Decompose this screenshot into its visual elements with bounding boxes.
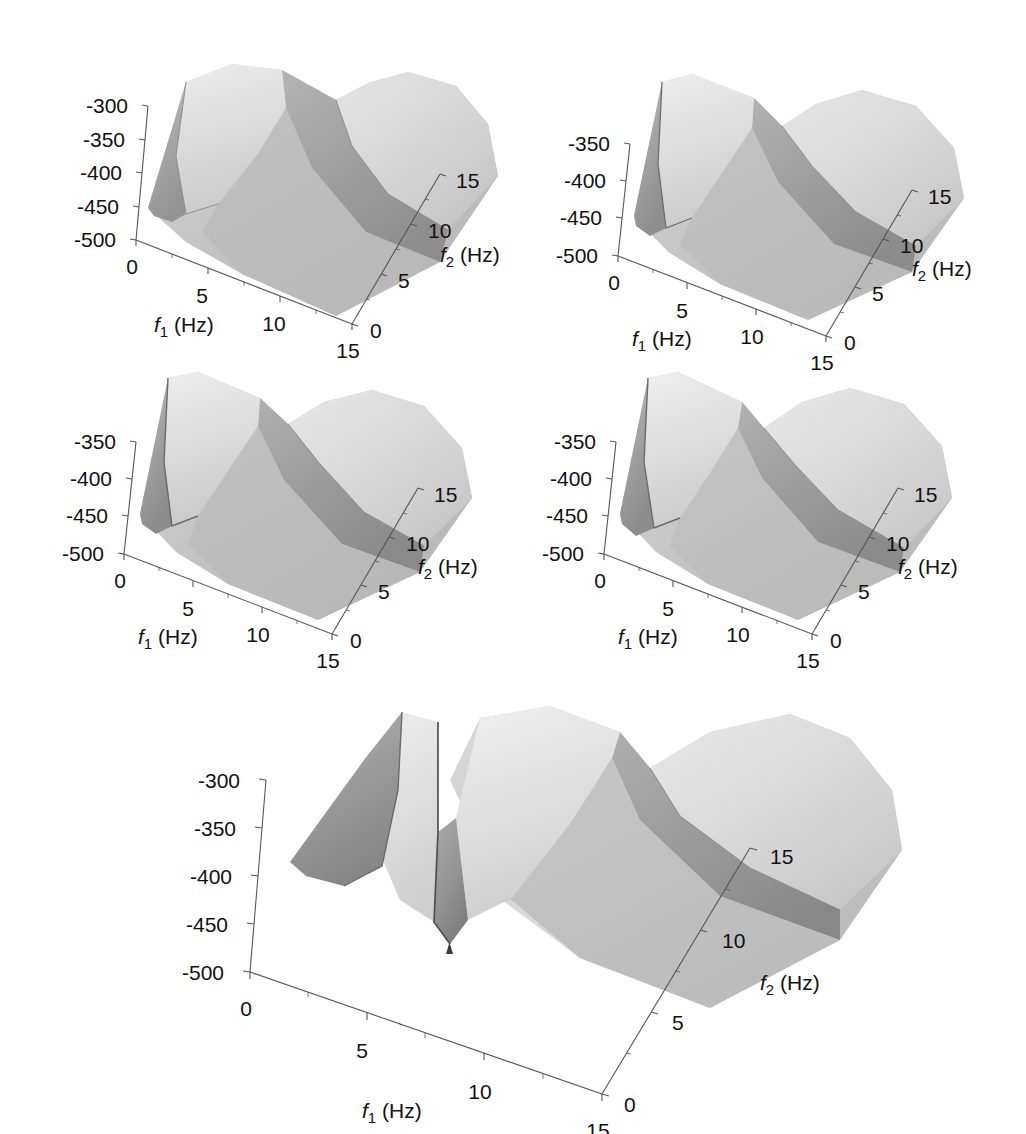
panel-1-z-tick-label-1: -350 xyxy=(83,128,125,151)
panel-5-x-axis-line xyxy=(250,972,602,1094)
figure-canvas: -300 -350 -400 -450 -500 0 5 10 15 f1 (H… xyxy=(0,0,1026,1134)
panel-3-z-ticks xyxy=(118,441,136,554)
panel-3-svg: -350 -400 -450 -500 0 5 10 15 f1 (Hz) xyxy=(32,358,502,658)
panel-5-x-ticks xyxy=(250,972,602,1101)
panel-1-y-tick-label-2: 10 xyxy=(428,219,451,242)
panel-5-z-tick-label-0: -300 xyxy=(198,769,240,792)
panel-5-svg: -300 -350 -400 -450 -500 0 5 10 15 f1 (H… xyxy=(150,672,920,1134)
panel-5-x-tick-label-0: 0 xyxy=(240,997,252,1020)
panel-4-z-ticks xyxy=(598,441,616,554)
panel-1-y-tick-label-3: 15 xyxy=(456,169,479,192)
panel-2-z-tick-label-1: -400 xyxy=(564,169,606,192)
panel-5-z-ticks xyxy=(243,779,266,972)
surface-plot-panel-2: -350 -400 -450 -500 0 5 10 15 f1 (Hz) xyxy=(516,48,986,358)
panel-4-y-tick-label-1: 5 xyxy=(858,580,870,603)
panel-5-x-tick-label-3: 15 xyxy=(586,1119,609,1134)
panel-3-y-tick-label-0: 0 xyxy=(350,629,362,652)
panel-4-y-tick-label-0: 0 xyxy=(830,629,842,652)
panel-3-x-tick-label-3: 15 xyxy=(316,649,339,672)
panel-2-x-tick-label-2: 10 xyxy=(740,325,763,348)
panel-4-x-tick-label-2: 10 xyxy=(726,623,749,646)
panel-5-z-tick-label-1: -350 xyxy=(194,817,236,840)
panel-2-z-tick-label-0: -350 xyxy=(568,132,610,155)
panel-4-y-tick-label-3: 15 xyxy=(914,483,937,506)
surface-plot-panel-1: -300 -350 -400 -450 -500 0 5 10 15 f1 (H… xyxy=(36,26,506,356)
panel-2-z-tick-label-2: -450 xyxy=(560,206,602,229)
panel-2-y-tick-label-2: 10 xyxy=(900,234,923,257)
panel-4-z-tick-label-0: -350 xyxy=(554,430,596,453)
panel-1-z-tick-label-2: -400 xyxy=(80,161,122,184)
panel-1-z-tick-label-3: -450 xyxy=(77,195,119,218)
panel-5-z-tick-label-4: -500 xyxy=(182,961,224,984)
panel-3-z-tick-label-1: -400 xyxy=(70,467,112,490)
panel-4-svg: -350 -400 -450 -500 0 5 10 15 f1 (Hz) xyxy=(512,358,982,658)
panel-4-z-tick-label-3: -500 xyxy=(542,542,584,565)
panel-2-z-tick-label-3: -500 xyxy=(556,244,598,267)
panel-5-y-tick-label-1: 5 xyxy=(672,1011,684,1034)
panel-1-x-tick-label-0: 0 xyxy=(126,255,138,278)
panel-1-x-tick-label-2: 10 xyxy=(262,312,285,335)
surface-plot-panel-3: -350 -400 -450 -500 0 5 10 15 f1 (Hz) xyxy=(32,358,502,658)
surface-plot-panel-5: -300 -350 -400 -450 -500 0 5 10 15 f1 (H… xyxy=(150,672,920,1134)
panel-3-x-tick-label-0: 0 xyxy=(114,569,126,592)
panel-5-cleft-floor-spike xyxy=(446,944,453,954)
panel-1-z-tick-label-0: -300 xyxy=(86,94,128,117)
panel-1-y-tick-label-1: 5 xyxy=(398,269,410,292)
panel-3-y-tick-label-3: 15 xyxy=(434,483,457,506)
panel-3-y-tick-label-2: 10 xyxy=(406,532,429,555)
panel-4-y-tick-label-2: 10 xyxy=(886,532,909,555)
panel-5-y-tick-label-3: 15 xyxy=(770,845,793,868)
surface-plot-panel-4: -350 -400 -450 -500 0 5 10 15 f1 (Hz) xyxy=(512,358,982,658)
panel-5-x-tick-label-2: 10 xyxy=(468,1080,491,1103)
panel-2-y-tick-label-0: 0 xyxy=(844,331,856,354)
panel-2-x-tick-label-1: 5 xyxy=(676,299,688,322)
panel-2-z-axis-line xyxy=(618,144,630,256)
panel-1-x-axis-title: f1 (Hz) xyxy=(154,313,214,340)
panel-4-x-tick-label-1: 5 xyxy=(662,597,674,620)
panel-3-x-tick-label-2: 10 xyxy=(246,623,269,646)
panel-3-y-tick-label-1: 5 xyxy=(378,580,390,603)
panel-3-z-tick-label-0: -350 xyxy=(74,430,116,453)
panel-2-x-tick-label-0: 0 xyxy=(608,271,620,294)
panel-4-x-tick-label-3: 15 xyxy=(796,649,819,672)
panel-5-y-tick-label-0: 0 xyxy=(624,1093,636,1116)
panel-2-y-tick-label-3: 15 xyxy=(928,185,951,208)
panel-5-z-tick-label-3: -450 xyxy=(186,913,228,936)
panel-2-x-axis-title: f1 (Hz) xyxy=(632,327,692,354)
panel-1-z-ticks xyxy=(130,105,148,240)
panel-5-x-tick-label-1: 5 xyxy=(356,1039,368,1062)
panel-3-x-axis-title: f1 (Hz) xyxy=(138,625,198,652)
panel-5-x-axis-title: f1 (Hz) xyxy=(362,1099,422,1126)
panel-3-z-tick-label-2: -450 xyxy=(66,504,108,527)
panel-3-z-axis-line xyxy=(124,442,136,554)
panel-2-y-tick-label-1: 5 xyxy=(872,282,884,305)
panel-1-y-tick-label-0: 0 xyxy=(370,319,382,342)
panel-2-svg: -350 -400 -450 -500 0 5 10 15 f1 (Hz) xyxy=(516,48,986,358)
panel-2-z-ticks xyxy=(612,143,630,256)
panel-5-y-tick-label-2: 10 xyxy=(722,929,745,952)
panel-3-x-tick-label-1: 5 xyxy=(182,597,194,620)
panel-4-z-tick-label-2: -450 xyxy=(546,504,588,527)
panel-1-x-tick-label-1: 5 xyxy=(196,284,208,307)
panel-3-z-tick-label-3: -500 xyxy=(62,542,104,565)
panel-4-x-axis-title: f1 (Hz) xyxy=(618,625,678,652)
panel-5-z-tick-label-2: -400 xyxy=(190,865,232,888)
panel-4-z-axis-line xyxy=(604,442,616,554)
panel-1-svg: -300 -350 -400 -450 -500 0 5 10 15 f1 (H… xyxy=(36,26,506,356)
panel-4-x-tick-label-0: 0 xyxy=(594,569,606,592)
panel-4-z-tick-label-1: -400 xyxy=(550,467,592,490)
panel-1-z-tick-label-4: -500 xyxy=(74,228,116,251)
panel-2-y-axis-title: f2 (Hz) xyxy=(912,257,972,284)
